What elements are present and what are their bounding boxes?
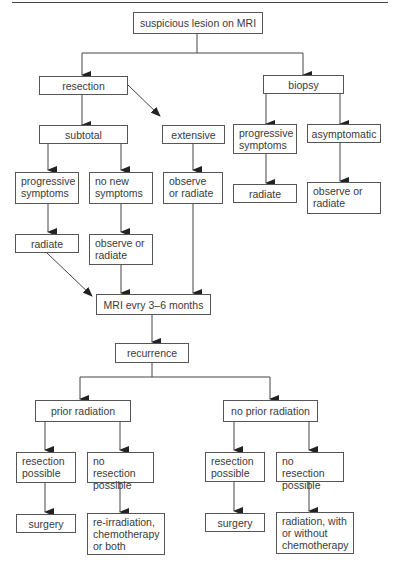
node-extensive-observe-or-radiate: observe or radiate bbox=[163, 172, 223, 204]
node-biopsy-observe-or-radiate: observe or radiate bbox=[307, 182, 381, 214]
node-asymptomatic: asymptomatic bbox=[307, 124, 381, 143]
node-prior-surgery: surgery bbox=[16, 514, 76, 533]
node-radiate: radiate bbox=[15, 234, 79, 253]
node-noprior-surgery: surgery bbox=[205, 513, 265, 532]
node-noprior-resection-possible: resection possible bbox=[205, 452, 265, 482]
node-prior-no-resection-possible: no resection possible bbox=[87, 452, 154, 483]
node-mri-followup: MRI evry 3–6 months bbox=[96, 294, 211, 315]
node-resection: resection bbox=[39, 76, 128, 95]
node-biopsy: biopsy bbox=[263, 75, 344, 94]
node-suspicious-lesion: suspicious lesion on MRI bbox=[133, 12, 263, 34]
node-prior-resection-possible: resection possible bbox=[16, 452, 76, 483]
node-reirradiation: re-irradiation, chemotherapy or both bbox=[87, 513, 165, 555]
node-prior-radiation: prior radiation bbox=[35, 400, 131, 422]
node-subtotal: subtotal bbox=[39, 125, 128, 144]
node-noprior-no-resection-possible: no resection possible bbox=[276, 452, 344, 482]
node-no-new-symptoms: no new symptoms bbox=[89, 172, 153, 204]
node-recurrence: recurrence bbox=[115, 343, 189, 363]
node-biopsy-progressive-symptoms: progressive symptoms bbox=[233, 124, 297, 154]
node-extensive: extensive bbox=[162, 125, 225, 144]
node-observe-or-radiate: observe or radiate bbox=[89, 234, 153, 265]
node-radiation-with-or-without-chemo: radiation, with or without chemotherapy bbox=[276, 512, 354, 554]
node-biopsy-radiate: radiate bbox=[233, 184, 297, 203]
node-resection-progressive-symptoms: progressive symptoms bbox=[15, 172, 79, 204]
node-no-prior-radiation: no prior radiation bbox=[223, 400, 318, 422]
